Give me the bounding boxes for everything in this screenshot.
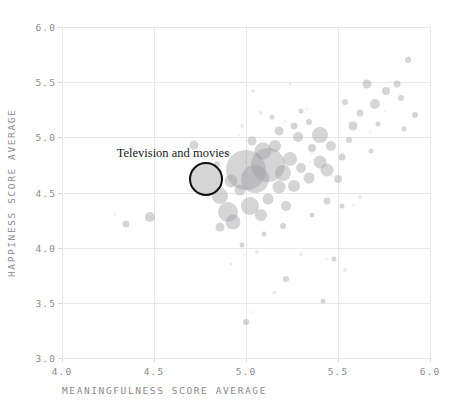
data-point-bubble[interactable]: [303, 173, 314, 184]
y-tick-label: 6.0: [22, 22, 56, 33]
chart-title: [0, 0, 462, 5]
data-point-bubble[interactable]: [275, 165, 291, 181]
data-point-bubble[interactable]: [402, 126, 407, 131]
data-point-bubble: [283, 120, 286, 123]
gridline-horizontal: [62, 82, 430, 83]
data-point-bubble: [114, 213, 117, 216]
data-point-bubble[interactable]: [326, 141, 336, 151]
data-point-bubble[interactable]: [370, 99, 380, 109]
data-point-bubble[interactable]: [310, 212, 315, 217]
gridline-horizontal: [62, 303, 430, 304]
data-point-bubble[interactable]: [332, 256, 337, 261]
data-point-bubble: [306, 107, 309, 110]
data-point-bubble[interactable]: [240, 243, 245, 248]
data-point-bubble: [407, 56, 410, 59]
gridline-horizontal: [62, 248, 430, 249]
data-point-bubble[interactable]: [342, 99, 348, 105]
data-point-bubble[interactable]: [338, 154, 345, 161]
x-tick-label: 5.5: [328, 366, 348, 377]
data-point-bubble[interactable]: [334, 175, 342, 183]
chart-canvas: HAPPINESS SCORE AVERAGE MEANINGFULNESS S…: [0, 0, 462, 413]
data-point-bubble[interactable]: [357, 110, 364, 117]
data-point-bubble: [326, 257, 329, 260]
y-tick-label: 4.0: [22, 242, 56, 253]
data-point-bubble: [311, 152, 314, 155]
data-point-bubble: [233, 180, 236, 183]
data-point-bubble[interactable]: [312, 127, 328, 143]
data-point-bubble: [227, 227, 230, 230]
data-point-bubble[interactable]: [290, 123, 297, 130]
data-point-bubble[interactable]: [346, 137, 352, 143]
data-point-bubble: [243, 254, 246, 257]
y-tick-label: 5.5: [22, 77, 56, 88]
y-tick-label: 5.0: [22, 132, 56, 143]
data-point-bubble[interactable]: [321, 298, 326, 303]
y-axis-title: HAPPINESS SCORE AVERAGE: [6, 27, 17, 364]
data-point-bubble[interactable]: [382, 87, 390, 95]
data-point-bubble[interactable]: [293, 132, 303, 142]
data-point-bubble: [330, 175, 333, 178]
data-point-bubble[interactable]: [269, 115, 274, 120]
data-point-bubble[interactable]: [123, 221, 130, 228]
highlighted-point-ring[interactable]: [189, 162, 223, 196]
data-point-bubble: [287, 188, 290, 191]
data-point-bubble: [285, 164, 288, 167]
data-point-bubble: [351, 203, 354, 206]
data-point-bubble: [309, 161, 312, 164]
data-point-bubble: [238, 134, 241, 137]
data-point-bubble[interactable]: [255, 250, 259, 254]
gridline-horizontal: [62, 193, 430, 194]
data-point-bubble[interactable]: [281, 201, 291, 211]
data-point-bubble: [241, 80, 244, 83]
data-point-bubble[interactable]: [263, 194, 274, 205]
data-point-bubble[interactable]: [358, 195, 362, 199]
y-tick-label: 3.5: [22, 297, 56, 308]
x-tick-label: 4.5: [144, 366, 164, 377]
data-point-bubble: [244, 161, 247, 164]
data-point-bubble[interactable]: [343, 268, 347, 272]
data-point-bubble[interactable]: [255, 209, 267, 221]
data-point-bubble: [272, 291, 275, 294]
data-point-bubble[interactable]: [376, 122, 381, 127]
data-point-bubble[interactable]: [299, 108, 304, 113]
data-point-bubble[interactable]: [398, 95, 404, 101]
data-point-bubble[interactable]: [251, 89, 255, 93]
data-point-bubble[interactable]: [323, 198, 330, 205]
data-point-bubble: [251, 152, 254, 155]
x-axis-title: MEANINGFULNESS SCORE AVERAGE: [62, 385, 267, 396]
data-point-bubble[interactable]: [275, 126, 284, 135]
data-point-bubble[interactable]: [262, 232, 267, 237]
data-point-bubble: [218, 164, 221, 167]
annotation-label: Television and movies: [117, 146, 229, 161]
data-point-bubble[interactable]: [280, 223, 286, 229]
data-point-bubble[interactable]: [289, 83, 292, 86]
y-tick-label: 3.0: [22, 353, 56, 364]
data-point-bubble[interactable]: [273, 180, 286, 193]
data-point-bubble[interactable]: [240, 124, 244, 128]
x-tick-mark: [430, 358, 431, 362]
gridline-horizontal: [62, 27, 430, 28]
x-tick-label: 6.0: [420, 366, 440, 377]
data-point-bubble[interactable]: [283, 276, 289, 282]
data-point-bubble[interactable]: [393, 81, 400, 88]
data-point-bubble[interactable]: [296, 163, 306, 173]
data-point-bubble: [252, 310, 255, 313]
data-point-bubble[interactable]: [247, 136, 256, 145]
data-point-bubble[interactable]: [145, 212, 155, 222]
data-point-bubble[interactable]: [243, 319, 249, 325]
plot-area: Television and movies: [62, 27, 430, 358]
data-point-bubble[interactable]: [216, 222, 225, 231]
data-point-bubble[interactable]: [369, 148, 374, 153]
gridline-horizontal: [62, 137, 430, 138]
gridline-vertical: [430, 27, 431, 358]
data-point-bubble[interactable]: [363, 80, 372, 89]
data-point-bubble[interactable]: [306, 119, 312, 125]
data-point-bubble: [369, 131, 372, 134]
data-point-bubble[interactable]: [299, 252, 303, 256]
data-point-bubble[interactable]: [412, 112, 418, 118]
data-point-bubble[interactable]: [269, 140, 281, 152]
data-point-bubble[interactable]: [339, 203, 344, 208]
data-point-bubble[interactable]: [230, 263, 233, 266]
data-point-bubble[interactable]: [259, 111, 263, 115]
x-tick-label: 4.0: [52, 366, 72, 377]
